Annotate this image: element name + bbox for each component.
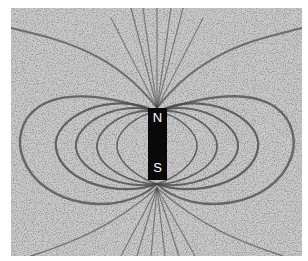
bar-magnet: N S [148, 108, 167, 180]
iron-filings-photo: N S [11, 8, 302, 256]
south-pole-label: S [148, 161, 167, 175]
north-pole-label: N [148, 111, 167, 125]
